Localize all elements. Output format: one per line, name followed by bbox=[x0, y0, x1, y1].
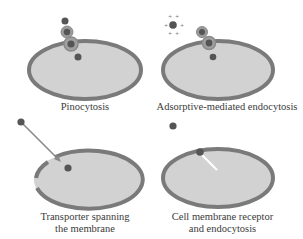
receptor-ligand-line bbox=[174, 127, 190, 141]
svg-text:+: + bbox=[164, 22, 168, 28]
released-particle bbox=[210, 54, 217, 61]
svg-text:+: + bbox=[180, 22, 184, 28]
adsorptive-cell: ++ ++ ++ bbox=[163, 13, 273, 99]
particle-outside bbox=[62, 18, 69, 25]
transporter-label-line1: Transporter spanning bbox=[20, 211, 150, 223]
diagram-canvas: ++ ++ ++ bbox=[0, 0, 303, 239]
particle-outside bbox=[17, 118, 24, 125]
receptor-cell bbox=[163, 122, 273, 207]
ligand-outside bbox=[169, 122, 176, 129]
pinocytosis-label: Pinocytosis bbox=[40, 101, 130, 113]
transported-particle bbox=[64, 164, 71, 171]
svg-text:+: + bbox=[175, 30, 179, 36]
svg-text:+: + bbox=[168, 30, 172, 36]
released-particle bbox=[75, 54, 82, 61]
transporter-cell bbox=[17, 118, 142, 209]
pinocytosis-cell bbox=[29, 18, 141, 100]
svg-text:+: + bbox=[168, 13, 172, 19]
charged-particle bbox=[169, 21, 177, 29]
adsorptive-label: Adsorptive-mediated endocytosis bbox=[151, 101, 303, 113]
receptor-label-line2: and endocytosis bbox=[160, 223, 285, 235]
internalized-ligand bbox=[196, 148, 204, 156]
svg-text:+: + bbox=[175, 13, 179, 19]
transport-arrow bbox=[22, 123, 58, 159]
transporter-label-line2: the membrane bbox=[20, 223, 150, 235]
receptor-label-line1: Cell membrane receptor bbox=[160, 211, 285, 223]
